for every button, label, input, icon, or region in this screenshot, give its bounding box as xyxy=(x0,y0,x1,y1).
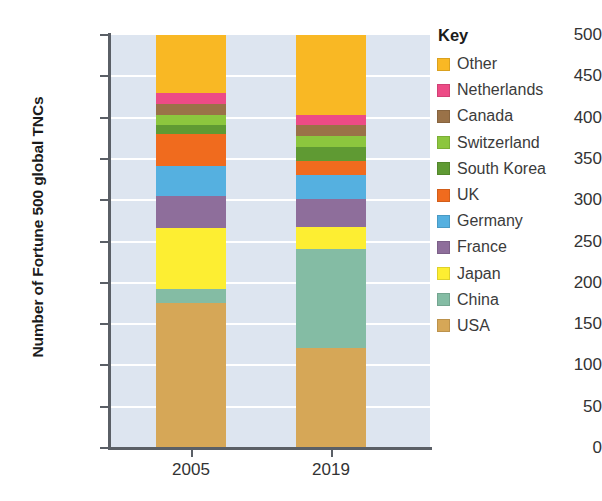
legend-swatch-icon xyxy=(437,84,450,97)
bar-segment-france[interactable] xyxy=(296,199,366,227)
y-axis-tick-label: 0 xyxy=(508,438,602,458)
bar-segment-switzerland[interactable] xyxy=(296,136,366,148)
legend-item-south-korea[interactable]: South Korea xyxy=(437,156,597,182)
legend-item-china[interactable]: China xyxy=(437,287,597,313)
bar-segment-usa[interactable] xyxy=(296,348,366,448)
legend-item-germany[interactable]: Germany xyxy=(437,208,597,234)
legend-item-netherlands[interactable]: Netherlands xyxy=(437,77,597,103)
legend-item-uk[interactable]: UK xyxy=(437,182,597,208)
bar-segment-canada[interactable] xyxy=(156,104,226,115)
y-axis-tick xyxy=(100,406,109,408)
x-axis-tick-label: 2005 xyxy=(131,460,251,480)
legend-swatch-icon xyxy=(437,136,450,149)
bar-segment-japan[interactable] xyxy=(296,227,366,249)
x-axis-tick xyxy=(331,448,333,457)
bar-segment-south-korea[interactable] xyxy=(156,125,226,134)
y-axis-tick xyxy=(100,75,109,77)
bar-segment-netherlands[interactable] xyxy=(296,115,366,125)
y-axis-tick xyxy=(100,282,109,284)
legend-item-france[interactable]: France xyxy=(437,234,597,260)
legend-item-label: South Korea xyxy=(457,160,546,178)
plot-area xyxy=(110,35,430,448)
legend-item-label: China xyxy=(457,291,499,309)
y-axis-tick-label: 100 xyxy=(508,355,602,375)
y-axis-tick xyxy=(100,199,109,201)
y-axis-tick xyxy=(100,158,109,160)
y-axis-title: Number of Fortune 500 global TNCs xyxy=(29,7,47,447)
y-axis-tick-label: 50 xyxy=(508,397,602,417)
y-axis-tick xyxy=(100,34,109,36)
bar-segment-germany[interactable] xyxy=(296,175,366,199)
legend-item-label: UK xyxy=(457,186,479,204)
y-axis-tick xyxy=(100,364,109,366)
bar-2005[interactable] xyxy=(156,35,226,448)
x-axis-line xyxy=(108,447,432,450)
bar-segment-china[interactable] xyxy=(296,249,366,348)
legend-item-label: Netherlands xyxy=(457,81,543,99)
legend-swatch-icon xyxy=(437,215,450,228)
bar-segment-uk[interactable] xyxy=(156,134,226,165)
legend-item-usa[interactable]: USA xyxy=(437,313,597,339)
y-axis-tick xyxy=(100,447,109,449)
x-axis-tick xyxy=(191,448,193,457)
bar-segment-france[interactable] xyxy=(156,196,226,228)
legend: Key OtherNetherlandsCanadaSwitzerlandSou… xyxy=(437,26,597,339)
y-axis-tick xyxy=(100,323,109,325)
legend-swatch-icon xyxy=(437,267,450,280)
legend-swatch-icon xyxy=(437,58,450,71)
legend-item-label: Switzerland xyxy=(457,134,540,152)
legend-swatch-icon xyxy=(437,293,450,306)
legend-swatch-icon xyxy=(437,189,450,202)
x-axis-tick-label: 2019 xyxy=(271,460,391,480)
legend-item-label: Japan xyxy=(457,265,501,283)
bar-segment-china[interactable] xyxy=(156,289,226,302)
legend-items: OtherNetherlandsCanadaSwitzerlandSouth K… xyxy=(437,51,597,339)
bar-segment-usa[interactable] xyxy=(156,303,226,448)
bar-segment-germany[interactable] xyxy=(156,166,226,197)
y-axis-tick xyxy=(100,117,109,119)
legend-item-label: Germany xyxy=(457,212,523,230)
legend-swatch-icon xyxy=(437,241,450,254)
bar-segment-netherlands[interactable] xyxy=(156,93,226,105)
bar-segment-uk[interactable] xyxy=(296,161,366,175)
bar-segment-canada[interactable] xyxy=(296,125,366,136)
stacked-bar-chart: Number of Fortune 500 global TNCs 050100… xyxy=(0,0,602,501)
bar-segment-other[interactable] xyxy=(296,35,366,115)
legend-swatch-icon xyxy=(437,162,450,175)
y-axis-tick xyxy=(100,241,109,243)
legend-item-label: France xyxy=(457,238,507,256)
bar-2019[interactable] xyxy=(296,35,366,448)
bar-segment-japan[interactable] xyxy=(156,228,226,289)
bar-segment-switzerland[interactable] xyxy=(156,115,226,125)
bar-segment-other[interactable] xyxy=(156,35,226,93)
legend-swatch-icon xyxy=(437,319,450,332)
legend-item-label: Other xyxy=(457,55,497,73)
legend-title: Key xyxy=(438,26,597,45)
legend-swatch-icon xyxy=(437,110,450,123)
legend-item-canada[interactable]: Canada xyxy=(437,103,597,129)
legend-item-label: USA xyxy=(457,317,490,335)
legend-item-label: Canada xyxy=(457,107,513,125)
bar-segment-south-korea[interactable] xyxy=(296,147,366,160)
legend-item-other[interactable]: Other xyxy=(437,51,597,77)
legend-item-switzerland[interactable]: Switzerland xyxy=(437,130,597,156)
legend-item-japan[interactable]: Japan xyxy=(437,261,597,287)
